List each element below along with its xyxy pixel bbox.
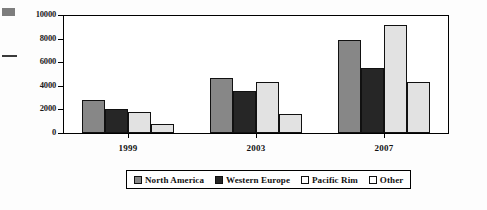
bar-pacific-rim-2003 [256,82,279,133]
y-axis-tick-label: 2000 [0,104,56,113]
plot-right-border [448,15,449,133]
y-axis-tick [58,62,63,63]
bar-western-europe-1999 [105,109,128,133]
bar-north-america-2003 [210,78,233,133]
x-axis-label-2003: 2003 [247,143,266,153]
legend-label: Western Europe [226,175,290,185]
x-axis-label-1999: 1999 [119,143,138,153]
bar-other-2007 [407,82,430,133]
chart-legend: North AmericaWestern EuropePacific RimOt… [126,170,411,189]
bar-other-1999 [151,124,174,133]
legend-item-north-america[interactable]: North America [134,175,204,185]
bar-pacific-rim-2007 [384,25,407,133]
legend-swatch-icon [134,176,142,184]
y-axis-tick [58,39,63,40]
legend-label: Other [380,175,404,185]
legend-item-other[interactable]: Other [369,175,404,185]
x-axis-tick [384,133,385,138]
bar-north-america-1999 [82,100,105,133]
y-axis-tick-label: 0 [0,128,56,137]
x-axis-label-2007: 2007 [375,143,394,153]
x-axis-tick [128,133,129,138]
y-axis-tick [58,15,63,16]
bar-chart: 0200040006000800010000 199920032007 Nort… [0,0,487,210]
bar-north-america-2007 [338,40,361,133]
legend-swatch-icon [369,176,377,184]
bar-western-europe-2007 [361,68,384,133]
legend-label: Pacific Rim [312,175,358,185]
y-axis-tick-label: 8000 [0,34,56,43]
legend-item-pacific-rim[interactable]: Pacific Rim [301,175,358,185]
bar-other-2003 [279,114,302,133]
legend-item-western-europe[interactable]: Western Europe [215,175,290,185]
x-axis-tick [256,133,257,138]
y-axis-tick [58,86,63,87]
legend-swatch-icon [215,176,223,184]
y-axis-tick-label: 10000 [0,10,56,19]
y-axis-tick-label: 6000 [0,57,56,66]
y-axis-tick-label: 4000 [0,81,56,90]
legend-label: North America [145,175,204,185]
y-axis-tick [58,109,63,110]
bar-western-europe-2003 [233,91,256,133]
bars-layer [64,15,448,133]
legend-swatch-icon [301,176,309,184]
y-axis-tick [58,133,63,134]
bar-pacific-rim-1999 [128,112,151,133]
